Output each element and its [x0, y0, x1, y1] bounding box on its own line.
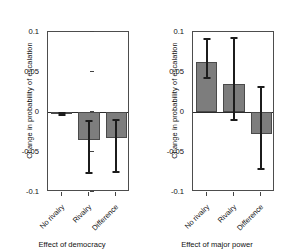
x-tick-mark [260, 192, 261, 196]
y-tick-mark [90, 31, 94, 32]
y-tick-label: 0.1 [28, 27, 39, 36]
error-bar-cap [58, 114, 65, 116]
error-bar-cap [258, 168, 265, 170]
y-tick-label: 0.05 [169, 67, 184, 76]
x-tick-mark [61, 192, 62, 196]
error-bar-cap [86, 120, 93, 122]
error-bar-cap [258, 86, 265, 88]
error-bar [88, 121, 90, 173]
plot-area-right [192, 31, 274, 191]
y-tick-label: 0 [35, 107, 39, 116]
y-tick-mark [90, 151, 94, 152]
y-tick-label: -0.05 [167, 147, 184, 156]
y-tick-label: -0.1 [171, 187, 184, 196]
error-bar [206, 39, 208, 77]
y-tick-label: 0.1 [173, 27, 184, 36]
y-tick-label: -0.1 [26, 187, 39, 196]
error-bar [233, 38, 235, 120]
error-bar-cap [203, 38, 210, 40]
plot-area-left [47, 31, 129, 191]
figure-two-panel-bar-chart: Change in probability of escalation 0.10… [0, 0, 289, 252]
error-bar [115, 120, 117, 172]
y-tick-mark [90, 191, 94, 192]
error-bar-cap [203, 77, 210, 79]
error-bar-cap [231, 119, 238, 121]
error-bar-cap [113, 171, 120, 173]
panel-effect-of-democracy: Change in probability of escalation 0.10… [0, 0, 144, 252]
y-axis-ticks-left: 0.10.050-0.05-0.1 [0, 0, 46, 252]
y-axis-ticks-right: 0.10.050-0.05-0.1 [145, 0, 191, 252]
error-bar-cap [58, 112, 65, 114]
x-tick-mark [115, 192, 116, 196]
y-tick-label: 0.05 [24, 67, 39, 76]
panel-effect-of-major-power: Change in probability of escalation 0.10… [145, 0, 289, 252]
error-bar-cap [86, 172, 93, 174]
x-tick-mark [88, 192, 89, 196]
y-tick-label: 0 [180, 107, 184, 116]
error-bar-cap [113, 119, 120, 121]
error-bar [260, 87, 262, 169]
x-tick-mark [233, 192, 234, 196]
y-tick-mark [90, 71, 94, 72]
x-tick-mark [206, 192, 207, 196]
y-tick-label: -0.05 [22, 147, 39, 156]
error-bar-cap [231, 37, 238, 39]
y-tick-mark [90, 111, 94, 112]
